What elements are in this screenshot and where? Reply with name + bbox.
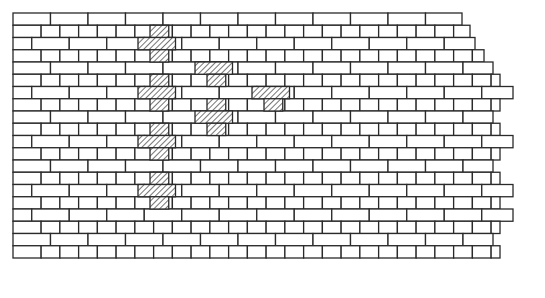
brick-stretcher: [407, 136, 445, 148]
brick-header: [285, 50, 304, 62]
brick-header: [210, 25, 229, 37]
brick-header: [322, 197, 341, 209]
brick-header: [379, 123, 398, 135]
brick-stretcher: [219, 185, 257, 197]
brick-header: [210, 197, 229, 209]
brick-stretcher: [482, 136, 513, 148]
brick-stretcher: [88, 160, 126, 172]
brick-header: [13, 50, 41, 62]
brick-header: [472, 172, 491, 184]
brick-header: [229, 148, 248, 160]
brick-stretcher: [313, 234, 351, 246]
brick-header: [397, 99, 416, 111]
brick-header: [285, 148, 304, 160]
brick-header: [360, 74, 379, 86]
brick-header: [322, 25, 341, 37]
brick-stretcher: [351, 234, 389, 246]
brick-header: [454, 221, 473, 233]
brick-header: [266, 221, 285, 233]
brick-stretcher: [88, 62, 126, 74]
brick-stretcher: [463, 234, 493, 246]
brick-header: [435, 50, 454, 62]
brick-header: [304, 25, 323, 37]
brick-header: [435, 74, 454, 86]
brick-header: [97, 148, 116, 160]
brick-header: [266, 172, 285, 184]
brick-stretcher: [13, 111, 51, 123]
brick-header: [341, 50, 360, 62]
brick-header: [472, 123, 491, 135]
brick-header: [135, 246, 154, 258]
brick-header: [247, 148, 266, 160]
hatched-brick: [150, 197, 169, 209]
brick-stretcher: [163, 160, 201, 172]
brick-header: [322, 74, 341, 86]
brick-header: [341, 148, 360, 160]
hatched-brick: [138, 136, 176, 148]
brick-stretcher: [182, 87, 220, 99]
brick-stretcher: [388, 111, 426, 123]
brick-header: [229, 172, 248, 184]
brick-header: [97, 50, 116, 62]
brick-stretcher: [294, 38, 332, 50]
brick-header: [304, 99, 323, 111]
brick-header: [210, 221, 229, 233]
brick-header: [379, 221, 398, 233]
brick-header: [379, 25, 398, 37]
brick-stretcher: [369, 209, 407, 221]
brick-header: [491, 123, 500, 135]
brick-stretcher: [294, 185, 332, 197]
brick-header: [247, 123, 266, 135]
brick-header: [491, 246, 500, 258]
brick-header: [379, 99, 398, 111]
brick-header: [97, 172, 116, 184]
brick-header: [397, 197, 416, 209]
brick-header: [454, 25, 470, 37]
brick-header: [379, 74, 398, 86]
brick-header: [322, 99, 341, 111]
hatched-brick: [150, 50, 169, 62]
brick-stretcher: [182, 136, 220, 148]
brick-header: [41, 99, 60, 111]
brick-header: [13, 221, 41, 233]
brick-header: [79, 172, 98, 184]
brick-header: [454, 148, 473, 160]
brick-header: [379, 197, 398, 209]
brick-header: [116, 50, 135, 62]
brick-header: [13, 25, 41, 37]
brick-header: [13, 148, 41, 160]
brick-stretcher: [69, 185, 107, 197]
brick-stretcher: [444, 185, 482, 197]
brick-stretcher: [332, 87, 370, 99]
brick-stretcher: [51, 160, 89, 172]
brick-header: [97, 197, 116, 209]
brick-header: [266, 25, 285, 37]
brick-stretcher: [88, 111, 126, 123]
brick-stretcher: [182, 185, 220, 197]
brick-stretcher: [369, 38, 407, 50]
hatched-brick: [195, 62, 233, 74]
brick-header: [172, 99, 191, 111]
brick-header: [172, 123, 191, 135]
brick-header: [491, 148, 500, 160]
brick-header: [416, 74, 435, 86]
brick-stretcher: [51, 111, 89, 123]
brick-header: [247, 74, 266, 86]
brick-header: [41, 123, 60, 135]
brick-header: [416, 221, 435, 233]
brick-stretcher: [463, 160, 493, 172]
hatched-brick: [207, 123, 226, 135]
brick-header: [397, 221, 416, 233]
brick-header: [172, 197, 191, 209]
brick-header: [97, 25, 116, 37]
brick-header: [360, 172, 379, 184]
brick-header: [79, 221, 98, 233]
brick-stretcher: [294, 87, 332, 99]
brick-stretcher: [13, 38, 32, 50]
brick-stretcher: [13, 62, 51, 74]
brick-header: [416, 148, 435, 160]
brick-header: [13, 246, 41, 258]
brick-header: [191, 221, 210, 233]
brick-stretcher: [219, 38, 257, 50]
brick-header: [247, 197, 266, 209]
